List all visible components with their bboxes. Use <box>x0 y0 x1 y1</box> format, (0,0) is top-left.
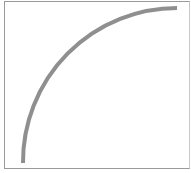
quarter-circle-arc <box>23 8 177 163</box>
arc-canvas <box>0 0 191 173</box>
